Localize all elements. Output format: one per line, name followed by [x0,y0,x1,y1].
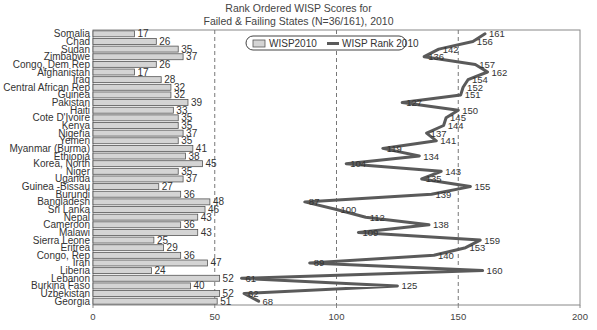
bar-value-label: 27 [162,181,174,192]
bar [93,138,178,144]
bar-value-label: 43 [201,212,213,223]
rank-value-label: 143 [445,166,461,177]
rank-value-label: 139 [435,189,451,200]
rank-value-label: 162 [491,67,507,78]
bar [93,291,220,297]
rank-value-label: 141 [440,135,456,146]
bar [93,260,207,266]
legend-bar-swatch [253,40,265,47]
rank-value-label: 68 [263,296,274,307]
chart-canvas: 050100150200Somalia17Chad26Sudan35Zimbab… [0,0,597,330]
bar-value-label: 36 [184,250,196,261]
bar [93,222,181,228]
rank-value-label: 156 [477,36,493,47]
bar-value-label: 36 [184,189,196,200]
x-tick-label: 0 [90,311,95,322]
bar-value-label: 38 [189,151,201,162]
rank-value-label: 153 [470,242,486,253]
legend-bar-label: WISP2010 [269,38,317,49]
bar [93,153,186,159]
category-label: Georgia [54,296,90,307]
bar [93,184,159,190]
rank-value-label: 104 [350,158,366,169]
rank-value-label: 100 [341,204,357,215]
bar [93,84,171,90]
bar-value-label: 36 [184,219,196,230]
bar [93,168,178,174]
bar [93,46,178,52]
bar-value-label: 47 [210,257,222,268]
bar [93,229,198,235]
bar [93,92,171,98]
bar [93,298,217,304]
rank-value-label: 138 [433,219,449,230]
bar-value-label: 35 [181,135,193,146]
bar [93,252,181,258]
bar-value-label: 45 [206,158,218,169]
bar [93,199,210,205]
bar-value-label: 24 [154,265,166,276]
x-tick-label: 100 [329,311,345,322]
rank-value-label: 87 [309,196,320,207]
rank-value-label: 155 [474,181,490,192]
rank-value-label: 119 [387,143,402,154]
bar [93,237,154,243]
x-tick-label: 50 [209,311,220,322]
bar [93,191,181,197]
bar-value-label: 26 [159,36,171,47]
rank-value-label: 62 [248,288,259,299]
bar [93,107,173,113]
bar [93,130,183,136]
bar-value-label: 51 [220,296,232,307]
chart-figure: Rank Ordered WISP Scores for Failed & Fa… [0,0,597,330]
rank-value-label: 159 [484,235,500,246]
bar-value-label: 39 [191,97,203,108]
bar-value-label: 32 [174,89,186,100]
bar-value-label: 43 [201,227,213,238]
rank-value-label: 136 [428,51,444,62]
rank-value-label: 142 [443,44,459,55]
bar-value-label: 17 [137,67,149,78]
rank-value-label: 61 [246,273,257,284]
rank-value-label: 125 [401,280,417,291]
bar [93,100,188,106]
rank-value-label: 89 [314,257,325,268]
bar [93,115,178,121]
rank-value-label: 151 [465,89,481,100]
bar-value-label: 17 [137,28,149,39]
bar [93,123,178,129]
rank-value-label: 127 [406,97,422,108]
bar [93,38,156,44]
bar [93,145,193,151]
bar-value-label: 52 [223,273,235,284]
rank-value-label: 135 [426,173,442,184]
bar-value-label: 26 [159,59,171,70]
bar-value-label: 37 [186,173,198,184]
rank-value-label: 112 [370,212,385,223]
bar-value-label: 29 [167,242,179,253]
bar [93,245,164,251]
rank-value-label: 134 [423,151,439,162]
bar [93,69,134,75]
bar [93,207,205,213]
rank-value-label: 140 [438,250,454,261]
rank-value-label: 109 [362,227,378,238]
bar [93,31,134,37]
bar [93,283,190,289]
rank-value-label: 160 [487,265,503,276]
x-tick-label: 150 [450,311,466,322]
legend-line-label: WISP Rank 2010 [342,38,419,49]
bar-value-label: 40 [193,280,205,291]
bar [93,268,151,274]
x-tick-label: 200 [572,311,588,322]
bar [93,77,161,83]
bar [93,214,198,220]
rank-value-label: 144 [448,120,464,131]
bar-value-label: 37 [186,51,198,62]
